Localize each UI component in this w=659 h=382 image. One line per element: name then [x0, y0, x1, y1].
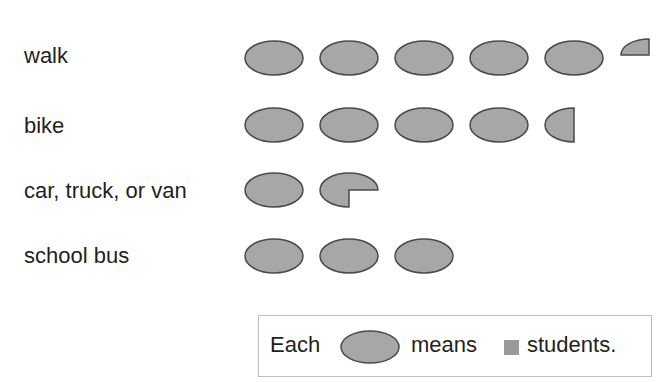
oval-symbol-icon — [243, 106, 305, 144]
three-quarter-oval-symbol-icon — [318, 171, 380, 209]
key-students-label: students. — [527, 332, 616, 358]
oval-symbol-icon — [318, 39, 380, 77]
oval-symbol-icon — [393, 39, 455, 77]
legend-key: Each means students. — [258, 315, 652, 377]
row-label-car: car, truck, or van — [24, 178, 187, 204]
row-label-walk: walk — [24, 43, 68, 69]
oval-symbol-icon — [318, 237, 380, 275]
row-label-school-bus: school bus — [24, 243, 129, 269]
oval-symbol-icon — [243, 237, 305, 275]
key-each-label: Each — [270, 332, 320, 358]
oval-symbol-icon — [318, 106, 380, 144]
row-label-bike: bike — [24, 113, 64, 139]
missing-value-square — [504, 340, 519, 355]
oval-symbol-icon — [468, 106, 530, 144]
oval-symbol-icon — [339, 328, 401, 366]
oval-symbol-icon — [243, 39, 305, 77]
quarter-oval-symbol-icon — [619, 35, 651, 59]
oval-symbol-icon — [243, 171, 305, 209]
oval-symbol-icon — [393, 237, 455, 275]
key-means-label: means — [411, 332, 477, 358]
oval-symbol-icon — [543, 39, 605, 77]
half-oval-symbol-icon — [543, 106, 577, 144]
oval-symbol-icon — [468, 39, 530, 77]
oval-symbol-icon — [393, 106, 455, 144]
